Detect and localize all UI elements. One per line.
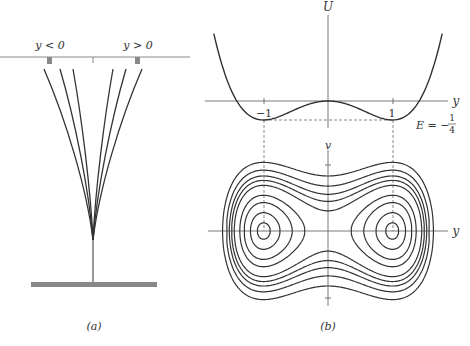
bottom-plate xyxy=(31,282,157,287)
energy-frac-num: 1 xyxy=(449,113,455,123)
right-marker xyxy=(135,57,140,64)
tick-label-minus-one: −1 xyxy=(256,107,272,120)
v-axis-label: v xyxy=(325,139,332,152)
trajectory-curves xyxy=(44,69,142,240)
trajectory-curve xyxy=(93,69,126,240)
trajectory-curve xyxy=(60,69,93,240)
panel-b-phase-plane: v y (b) xyxy=(208,139,460,333)
energy-frac-den: 4 xyxy=(449,125,455,135)
label-y-negative: y < 0 xyxy=(34,39,64,52)
y-axis-label-bottom: y xyxy=(452,224,460,238)
label-y-positive: y > 0 xyxy=(122,39,152,52)
energy-label: E = − xyxy=(415,119,449,132)
figure: y < 0 y > 0 (a) U y −1 1 E = − 1 4 v y (… xyxy=(0,0,470,346)
caption-b: (b) xyxy=(320,320,336,333)
caption-a: (a) xyxy=(86,320,101,333)
y-axis-label-top: y xyxy=(452,94,460,108)
u-axis-label: U xyxy=(323,0,334,14)
tick-label-one: 1 xyxy=(389,107,396,120)
panel-a: y < 0 y > 0 (a) xyxy=(0,39,190,333)
left-marker xyxy=(47,57,52,64)
